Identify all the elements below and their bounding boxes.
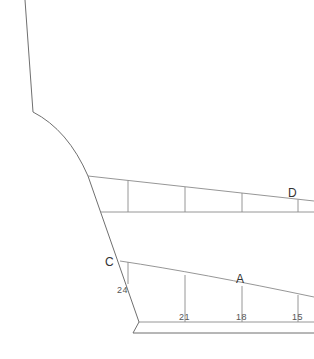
base-plate (133, 322, 314, 333)
upper-band-top-line (88, 176, 314, 201)
point-label-c: C (105, 256, 114, 268)
measurement-24: 24 (117, 286, 128, 295)
diagram-lines (0, 0, 314, 359)
measurement-21: 21 (179, 313, 190, 322)
point-label-a: A (236, 273, 244, 285)
measurement-15: 15 (292, 313, 303, 322)
point-label-d: D (288, 187, 297, 199)
measurement-18: 18 (236, 313, 247, 322)
profile-curve (33, 112, 88, 176)
profile-upper-edge (25, 0, 33, 112)
diagram: D C A 24 21 18 15 (0, 0, 314, 359)
profile-slanted-wall (88, 176, 139, 322)
lower-band-top-line (120, 261, 314, 297)
